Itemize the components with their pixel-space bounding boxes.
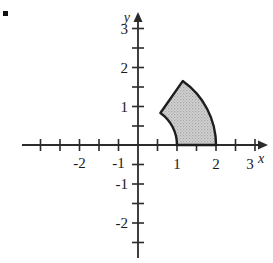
- x-tick-label-neg1: -1: [112, 155, 125, 171]
- y-axis: [132, 12, 144, 258]
- shaded-region: [160, 81, 216, 145]
- y-tick-label-1: 1: [121, 99, 129, 115]
- x-axis-label: x: [257, 151, 265, 166]
- x-tick-labels: -2 -1 1 2 3: [73, 155, 254, 172]
- x-tick-label-2: 2: [212, 156, 220, 172]
- x-tick-label-neg2: -2: [73, 155, 86, 171]
- y-axis-label: y: [122, 10, 131, 25]
- polar-region-figure: -2 -1 1 2 3 3 2 1 -1 -2 y x: [0, 0, 273, 263]
- y-tick-label-neg2: -2: [116, 215, 129, 231]
- y-tick-label-neg1: -1: [116, 176, 129, 192]
- y-axis-arrow-icon: [134, 12, 143, 22]
- x-tick-label-1: 1: [173, 156, 181, 172]
- x-tick-label-3: 3: [246, 156, 254, 172]
- y-tick-label-2: 2: [121, 60, 129, 76]
- y-tick-labels: 3 2 1 -1 -2: [116, 21, 129, 231]
- coordinate-plot: -2 -1 1 2 3 3 2 1 -1 -2 y x: [0, 0, 273, 263]
- square-bullet-icon: [3, 11, 8, 16]
- x-axis: [22, 139, 268, 151]
- x-axis-arrow-icon: [258, 141, 268, 150]
